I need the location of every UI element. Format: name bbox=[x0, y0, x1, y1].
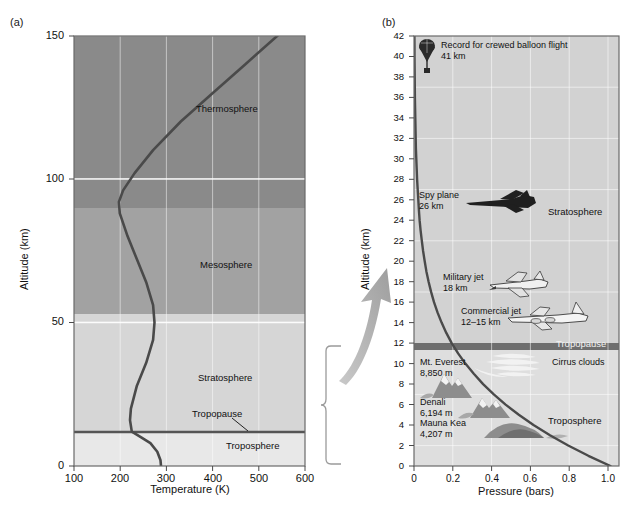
annotation-balloon-label: Record for crewed balloon flight bbox=[441, 40, 568, 51]
panel-a-ytick-100: 100 bbox=[30, 172, 64, 184]
panel-a-ytick-0: 0 bbox=[30, 459, 64, 471]
panel-a-layer-thermosphere: Thermosphere bbox=[196, 103, 258, 114]
annotation-cirrus-clouds: Cirrus clouds bbox=[552, 357, 605, 368]
panel-b-letter: (b) bbox=[382, 16, 395, 28]
panel-a-ytick-50: 50 bbox=[30, 315, 64, 327]
panel-b-xtick-0.4: 0.4 bbox=[472, 473, 512, 484]
annotation-commercial-jet-label: Commercial jet bbox=[461, 306, 521, 317]
panel-a-label-tropopause: Tropopause bbox=[192, 408, 242, 419]
panel-a-layer-stratosphere: Stratosphere bbox=[198, 372, 252, 383]
panel-b-xtick-0.2: 0.2 bbox=[433, 473, 473, 484]
panel-b-ytick-10: 10 bbox=[374, 358, 404, 369]
annotation-military-jet-value: 18 km bbox=[443, 283, 468, 294]
panel-a-layer-troposphere: Troposphere bbox=[226, 440, 280, 451]
panel-b-ytick-14: 14 bbox=[374, 317, 404, 328]
panel-b-y-axis-title: Altitude (km) bbox=[359, 228, 371, 290]
panel-b-ytick-28: 28 bbox=[374, 173, 404, 184]
panel-b-ytick-12: 12 bbox=[374, 337, 404, 348]
panel-a-y-axis-title: Altitude (km) bbox=[18, 228, 30, 290]
zoom-brace bbox=[321, 346, 341, 464]
panel-a-xtick-300: 300 bbox=[146, 472, 186, 484]
panel-b-xtick-0: 0 bbox=[394, 473, 434, 484]
panel-b-xtick-0.8: 0.8 bbox=[549, 473, 589, 484]
panel-a-x-axis-title: Temperature (K) bbox=[114, 483, 266, 495]
panel-a-ytick-150: 150 bbox=[30, 29, 64, 41]
annotation-commercial-jet-value: 12–15 km bbox=[461, 317, 501, 328]
panel-a-plot bbox=[0, 0, 633, 511]
panel-b-ytick-18: 18 bbox=[374, 276, 404, 287]
annotation-denali-label: Denali bbox=[420, 397, 446, 408]
panel-b-layer-troposphere: Troposphere bbox=[548, 415, 602, 426]
panel-b-xtick-0.6: 0.6 bbox=[510, 473, 550, 484]
panel-b-ytick-2: 2 bbox=[374, 440, 404, 451]
annotation-everest-value: 8,850 m bbox=[420, 368, 453, 379]
figure-atmosphere-profiles: (a) bbox=[0, 0, 633, 511]
panel-b-ytick-42: 42 bbox=[374, 30, 404, 41]
panel-b-ytick-20: 20 bbox=[374, 255, 404, 266]
panel-b-ytick-40: 40 bbox=[374, 50, 404, 61]
panel-a-xtick-200: 200 bbox=[100, 472, 140, 484]
panel-b-ytick-0: 0 bbox=[374, 460, 404, 471]
panel-b-ytick-22: 22 bbox=[374, 235, 404, 246]
annotation-spy-plane-value: 26 km bbox=[419, 201, 444, 212]
panel-b-ytick-6: 6 bbox=[374, 399, 404, 410]
panel-b-ytick-4: 4 bbox=[374, 419, 404, 430]
panel-a-xtick-100: 100 bbox=[54, 472, 94, 484]
annotation-military-jet-label: Military jet bbox=[443, 272, 484, 283]
annotation-maunakea-value: 4,207 m bbox=[420, 429, 453, 440]
panel-b-ytick-16: 16 bbox=[374, 296, 404, 307]
panel-a-xtick-500: 500 bbox=[239, 472, 279, 484]
annotation-balloon-value: 41 km bbox=[441, 51, 466, 62]
panel-a-xtick-400: 400 bbox=[193, 472, 233, 484]
panel-a-xtick-600: 600 bbox=[285, 472, 325, 484]
annotation-everest-label: Mt. Everest bbox=[420, 357, 466, 368]
panel-b-ytick-32: 32 bbox=[374, 132, 404, 143]
panel-a-layer-bands bbox=[74, 36, 305, 466]
annotation-maunakea-label: Mauna Kea bbox=[420, 418, 466, 429]
panel-b-layer-stratosphere: Stratosphere bbox=[548, 206, 602, 217]
panel-b-xtickmarks bbox=[414, 466, 608, 471]
panel-b-ytick-34: 34 bbox=[374, 112, 404, 123]
annotation-spy-plane-label: Spy plane bbox=[419, 190, 459, 201]
panel-b-ytick-24: 24 bbox=[374, 214, 404, 225]
panel-b-ytick-36: 36 bbox=[374, 91, 404, 102]
panel-b-ytick-8: 8 bbox=[374, 378, 404, 389]
panel-b-x-axis-title: Pressure (bars) bbox=[441, 485, 591, 497]
panel-a-layer-mesosphere: Mesosphere bbox=[200, 259, 252, 270]
panel-b-tickmarks bbox=[409, 36, 414, 466]
panel-b-ytick-30: 30 bbox=[374, 153, 404, 164]
panel-b-ytick-26: 26 bbox=[374, 194, 404, 205]
panel-b-ytick-38: 38 bbox=[374, 71, 404, 82]
panel-b-layer-tropopause: Tropopause bbox=[556, 338, 606, 349]
panel-b-xtick-1.0: 1.0 bbox=[588, 473, 628, 484]
